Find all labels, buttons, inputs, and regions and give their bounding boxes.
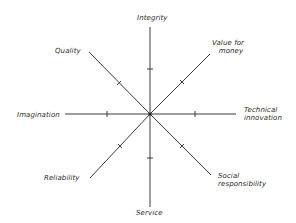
- label-integrity: Integrity: [137, 14, 168, 22]
- label-value-for-money-line1: Value for: [212, 39, 244, 47]
- label-social-responsibility: Social responsibility: [218, 172, 266, 188]
- label-value-for-money-line2: money: [212, 47, 244, 55]
- label-social-responsibility-line2: responsibility: [218, 180, 266, 188]
- label-social-responsibility-line1: Social: [218, 172, 266, 180]
- axis-value-for-money: [150, 54, 210, 114]
- label-technical-innovation: Technical innovation: [244, 106, 282, 122]
- label-technical-innovation-line2: innovation: [244, 114, 282, 122]
- label-value-for-money: Value for money: [212, 39, 244, 55]
- axis-social-responsibility: [150, 114, 211, 175]
- label-imagination: Imagination: [17, 111, 60, 119]
- center-point: [148, 112, 151, 115]
- label-service: Service: [136, 209, 163, 217]
- label-reliability: Reliability: [44, 174, 80, 182]
- label-technical-innovation-line1: Technical: [244, 106, 282, 114]
- label-quality: Quality: [55, 47, 81, 55]
